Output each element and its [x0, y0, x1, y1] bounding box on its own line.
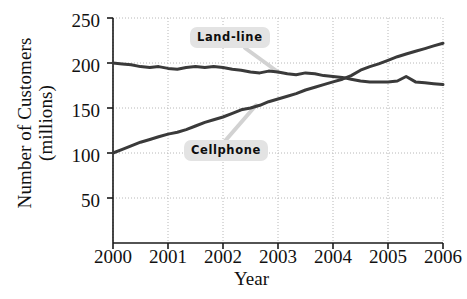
land-line-callout: Land-line — [190, 27, 270, 48]
callout-leader-lines — [225, 48, 278, 141]
grid-lines — [113, 18, 443, 243]
data-series — [113, 43, 443, 153]
axis-ticks — [107, 18, 443, 249]
cellphone-callout: Cellphone — [184, 140, 268, 161]
